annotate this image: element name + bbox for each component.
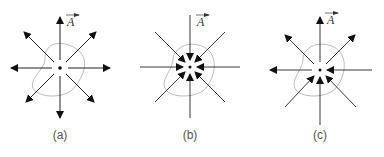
caption-b: (b)	[183, 128, 198, 142]
caption-a: (a)	[53, 128, 68, 142]
vector-label-a: A	[67, 15, 74, 30]
vector-label-b: A	[197, 15, 204, 30]
panel-a	[11, 15, 110, 118]
panel-b	[140, 15, 240, 118]
panel-c	[270, 13, 372, 125]
point-sink	[189, 66, 192, 69]
vector-label-c: A	[327, 13, 334, 28]
closed-surface	[164, 44, 214, 96]
caption-c: (c)	[313, 128, 327, 142]
point	[319, 69, 322, 72]
point-source	[58, 66, 62, 70]
